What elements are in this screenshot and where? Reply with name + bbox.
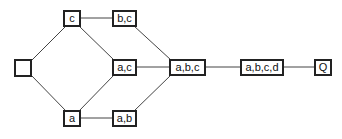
node-a-c: a,c	[112, 59, 137, 76]
edge-empty-a	[31, 75, 66, 111]
node-a-b-c: a,b,c	[169, 59, 206, 76]
edge-bc-abc	[134, 26, 171, 60]
edge-c-ac	[79, 26, 114, 60]
edge-empty-c	[31, 26, 66, 61]
node-q: Q	[314, 59, 332, 76]
edge-ab-abc	[134, 75, 171, 111]
edge-a-ac	[79, 75, 114, 111]
node-a-b-c-d: a,b,c,d	[240, 59, 284, 76]
node-empty	[14, 59, 32, 77]
node-a: a	[63, 110, 81, 127]
node-c: c	[63, 10, 81, 27]
node-b-c: b,c	[112, 10, 137, 27]
node-a-b: a,b	[112, 110, 137, 127]
